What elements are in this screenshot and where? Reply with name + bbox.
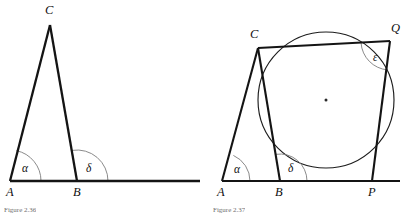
figure-right-caption: Figure 2.37 [213,206,245,215]
figure-left-caption: Figure 2.36 [4,206,36,215]
vertex-label-C: C [250,27,259,41]
side-AC [222,48,258,181]
vertex-label-A: A [216,185,225,199]
figure-stage: αδABC αδεABCPQ Figure 2.36 Figure 2.37 [0,0,413,215]
vertex-label-P: P [367,185,376,199]
figure-right-cyclic-quadrilateral: αδεABCPQ [0,0,413,215]
chord-CQ [258,41,390,48]
side-BC [258,48,280,181]
circle-center-dot [325,99,328,102]
angle-label-epsilon: ε [373,51,378,63]
vertex-label-B: B [275,185,283,199]
angle-label-alpha: α [234,163,241,175]
angle-label-delta: δ [288,162,294,174]
vertex-label-Q: Q [391,21,400,35]
